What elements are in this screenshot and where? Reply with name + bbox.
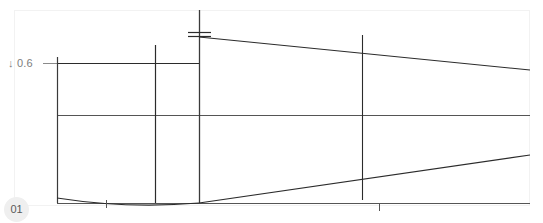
drawing-canvas <box>0 0 543 223</box>
taper-top-edge <box>199 37 530 70</box>
taper-bottom-edge <box>199 155 530 203</box>
technical-drawing-viewport: ↓ 0.6 01 <box>0 0 543 223</box>
sheet-number-label: 01 <box>10 204 22 215</box>
sheet-number-badge: 01 <box>4 197 29 222</box>
drawing-frame <box>15 11 530 206</box>
depth-dimension-label: ↓ 0.6 <box>8 57 33 69</box>
sag-curve <box>57 198 199 205</box>
